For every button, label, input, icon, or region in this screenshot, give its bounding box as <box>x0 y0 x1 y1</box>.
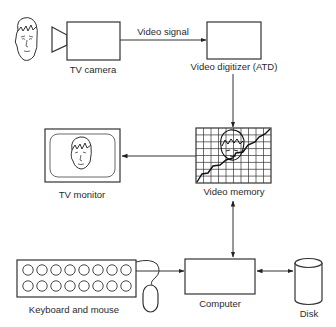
cylinder-icon <box>295 259 322 305</box>
keyboard-mouse-label: Keyboard and mouse <box>29 304 119 315</box>
tv-camera-label: TV camera <box>70 64 117 75</box>
disk: Disk <box>295 259 322 320</box>
mouse-icon <box>136 260 159 312</box>
image-processing-diagram: TV camera Video signal Video digitizer (… <box>0 0 336 327</box>
tv-monitor: TV monitor <box>45 129 120 200</box>
camera-lens-icon <box>52 27 67 52</box>
video-memory-label: Video memory <box>203 186 264 197</box>
keyboard <box>17 260 136 297</box>
computer: Computer <box>185 259 255 309</box>
video-digitizer: Video digitizer (ATD) <box>191 22 278 72</box>
tv-camera: TV camera <box>52 22 120 75</box>
camera-body <box>67 22 120 60</box>
tv-monitor-label: TV monitor <box>59 189 105 200</box>
video-digitizer-label: Video digitizer (ATD) <box>191 61 278 72</box>
face-icon <box>15 18 37 61</box>
video-memory: Video memory <box>196 128 271 197</box>
computer-label: Computer <box>199 298 241 309</box>
video-signal-label: Video signal <box>137 26 189 37</box>
disk-label: Disk <box>300 308 319 319</box>
